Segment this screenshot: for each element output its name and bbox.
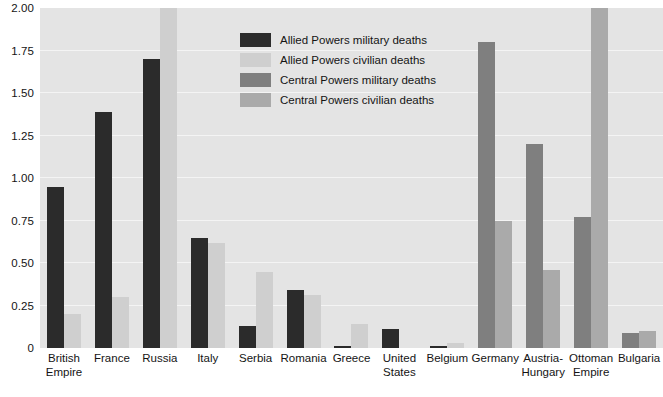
bar xyxy=(334,346,351,348)
bar-group xyxy=(40,8,88,348)
bar xyxy=(574,217,591,348)
bar xyxy=(208,243,225,348)
y-axis-tick-label: 1.75 xyxy=(11,45,34,57)
x-axis-tick-label: France xyxy=(88,350,136,397)
x-axis-tick-label: United States xyxy=(375,350,423,397)
x-axis-tick-label: Germany xyxy=(471,350,519,397)
x-axis-tick-label: British Empire xyxy=(40,350,88,397)
bar xyxy=(304,295,321,348)
legend-item[interactable]: Allied Powers civilian deaths xyxy=(240,53,436,67)
bar xyxy=(143,59,160,348)
x-axis-tick-label: Romania xyxy=(280,350,328,397)
bar xyxy=(95,112,112,348)
bar-group xyxy=(519,8,567,348)
legend-item[interactable]: Central Powers civilian deaths xyxy=(240,93,436,107)
y-axis-tick-label: 0 xyxy=(28,342,35,354)
x-axis-tick-label: Austria- Hungary xyxy=(519,350,567,397)
legend-swatch xyxy=(240,93,271,107)
bar-group xyxy=(615,8,663,348)
x-axis-tick-label: Greece xyxy=(328,350,376,397)
bar xyxy=(495,221,512,349)
chart-legend: Allied Powers military deathsAllied Powe… xyxy=(240,33,436,107)
y-axis-tick-label: 0.25 xyxy=(11,300,34,312)
bar xyxy=(382,329,399,348)
bar xyxy=(112,297,129,348)
y-axis-tick-label: 2.00 xyxy=(11,2,34,14)
x-axis-tick-label: Serbia xyxy=(232,350,280,397)
bar xyxy=(191,238,208,349)
y-axis-tick-label: 1.25 xyxy=(11,130,34,142)
bar-chart: 00.250.500.751.001.251.501.752.00 Britis… xyxy=(0,0,663,397)
y-axis-tick-label: 1.50 xyxy=(11,87,34,99)
bar xyxy=(160,8,177,348)
legend-swatch xyxy=(240,33,271,47)
legend-item[interactable]: Allied Powers military deaths xyxy=(240,33,436,47)
bar xyxy=(64,314,81,348)
y-axis-tick-label: 0.75 xyxy=(11,215,34,227)
legend-swatch xyxy=(240,73,271,87)
x-axis-tick-label: Italy xyxy=(184,350,232,397)
legend-label: Central Powers civilian deaths xyxy=(280,94,434,106)
bar xyxy=(447,343,464,348)
bar xyxy=(239,326,256,348)
x-axis-tick-label: Bulgaria xyxy=(615,350,663,397)
x-axis-tick-label: Russia xyxy=(136,350,184,397)
bar xyxy=(478,42,495,348)
bar xyxy=(639,331,656,348)
legend-item[interactable]: Central Powers military deaths xyxy=(240,73,436,87)
bar xyxy=(543,270,560,348)
bar xyxy=(622,333,639,348)
bar-group xyxy=(88,8,136,348)
bar-group xyxy=(567,8,615,348)
y-axis-tick-label: 0.50 xyxy=(11,257,34,269)
bar xyxy=(591,8,608,348)
y-axis-tick-label: 1.00 xyxy=(11,172,34,184)
bar xyxy=(351,324,368,348)
legend-swatch xyxy=(240,53,271,67)
x-axis-tick-label: Belgium xyxy=(423,350,471,397)
x-axis: British EmpireFranceRussiaItalySerbiaRom… xyxy=(40,350,663,397)
x-axis-tick-label: Ottoman Empire xyxy=(567,350,615,397)
bar-group xyxy=(136,8,184,348)
bar xyxy=(256,272,273,349)
bar xyxy=(526,144,543,348)
bar-group xyxy=(184,8,232,348)
bar xyxy=(287,290,304,348)
legend-label: Allied Powers civilian deaths xyxy=(280,54,425,66)
bar-group xyxy=(471,8,519,348)
legend-label: Central Powers military deaths xyxy=(280,74,436,86)
y-axis: 00.250.500.751.001.251.501.752.00 xyxy=(0,0,40,356)
bar xyxy=(47,187,64,349)
bar xyxy=(430,346,447,348)
legend-label: Allied Powers military deaths xyxy=(280,34,427,46)
